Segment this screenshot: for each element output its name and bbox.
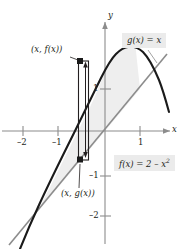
lower-point-marker: [77, 157, 83, 163]
y-tick-label--1: –1: [89, 171, 99, 180]
y-tick-label-1: 1: [93, 84, 98, 93]
x-tick-label--2: –2: [17, 138, 27, 147]
x-tick-label--1: –1: [52, 138, 62, 147]
parabola-equation-text: f(x) = 2 – x: [119, 159, 166, 169]
y-tick-label--2: –2: [89, 211, 99, 220]
x-axis-label: x: [172, 125, 177, 134]
x-axis-arrow: [163, 128, 170, 134]
strip-arrow-head-up: [83, 62, 88, 68]
lower-label-leader: [79, 164, 80, 188]
parabola-equation-exponent: 2: [166, 157, 170, 164]
x-tick-label-1: 1: [138, 138, 143, 147]
upper-label-leader: [70, 57, 78, 60]
y-axis-arrow: [102, 22, 108, 29]
upper-point-label: (x, f(x)): [31, 45, 62, 54]
line-equation-box: g(x) = x: [122, 33, 166, 48]
y-axis-label: y: [108, 11, 113, 20]
line-equation-text: g(x) = x: [127, 35, 161, 45]
lower-point-label: (x, g(x)): [61, 189, 95, 198]
figure-container: x y –2 –1 1 1 –1 –2 (x, f(x)) (x, g(x)) …: [0, 0, 182, 249]
parabola-equation-box: f(x) = 2 – x2: [114, 155, 175, 171]
upper-point-marker: [77, 58, 83, 64]
